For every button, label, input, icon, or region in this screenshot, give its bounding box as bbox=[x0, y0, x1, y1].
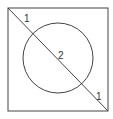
segment-label-middle: 2 bbox=[58, 50, 64, 61]
segment-label-bottom: 1 bbox=[96, 91, 102, 102]
geometry-diagram: 1 2 1 bbox=[0, 0, 113, 119]
segment-label-top: 1 bbox=[24, 13, 30, 24]
